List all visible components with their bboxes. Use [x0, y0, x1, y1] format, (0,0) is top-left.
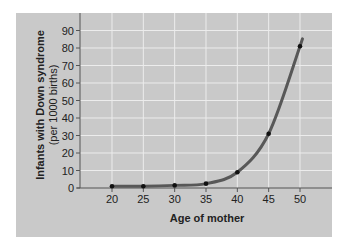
y-tick-label: 20: [62, 147, 74, 159]
y-tick-label: 50: [62, 95, 74, 107]
x-tick-label: 30: [169, 193, 181, 205]
trend-curve: [112, 39, 303, 187]
y-tick-label: 70: [62, 60, 74, 72]
y-tick-label: 10: [62, 165, 74, 177]
x-tick-label: 20: [106, 193, 118, 205]
y-tick-label: 60: [62, 77, 74, 89]
line-chart: 010203040506070809020253035404550 Age of…: [0, 0, 341, 248]
gridlines: [80, 13, 332, 188]
x-axis-title: Age of mother: [170, 212, 245, 224]
y-tick-label: 0: [68, 182, 74, 194]
data-point: [172, 183, 177, 188]
data-point: [110, 184, 115, 189]
data-point: [266, 131, 271, 136]
x-tick-label: 40: [231, 193, 243, 205]
x-tick-label: 25: [137, 193, 149, 205]
data-point: [141, 184, 146, 189]
data-point: [298, 44, 303, 49]
data-curve: [112, 39, 303, 187]
y-axis-subtitle: (per 1000 births): [47, 65, 59, 146]
y-tick-label: 80: [62, 42, 74, 54]
data-point: [204, 181, 209, 186]
y-tick-label: 40: [62, 112, 74, 124]
x-tick-label: 45: [263, 193, 275, 205]
y-tick-label: 90: [62, 25, 74, 37]
y-tick-label: 30: [62, 130, 74, 142]
y-axis-title: Infants with Down syndrome: [34, 30, 46, 180]
axes: [76, 13, 332, 192]
data-point: [235, 170, 240, 175]
x-tick-label: 50: [294, 193, 306, 205]
x-tick-label: 35: [200, 193, 212, 205]
tick-labels: 010203040506070809020253035404550: [62, 25, 306, 206]
